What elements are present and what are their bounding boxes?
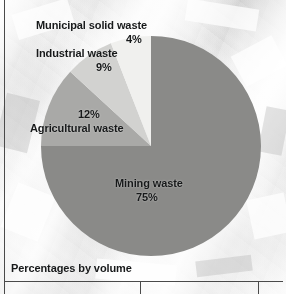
frame-tick-left [4, 281, 5, 294]
slice-label-mining-waste: Mining waste [115, 177, 183, 190]
pie-svg [40, 35, 262, 257]
chart-footnote: Percentages by volume [11, 262, 132, 274]
slice-value-mining-waste: 75% [136, 191, 158, 204]
frame-left-rule [4, 0, 5, 294]
frame-tick-right [258, 281, 259, 294]
slice-label-municipal-solid-waste: Municipal solid waste [36, 19, 147, 32]
frame-bottom-rule [4, 281, 283, 282]
slice-label-agricultural-waste: Agricultural waste [30, 122, 124, 135]
slice-value-municipal-solid-waste: 4% [126, 33, 142, 46]
pie-chart [40, 35, 262, 257]
slice-value-industrial-waste: 9% [96, 61, 112, 74]
slice-label-industrial-waste: Industrial waste [36, 47, 118, 60]
frame-tick-middle [140, 281, 141, 294]
infographic-pie-chart-panel: Municipal solid waste 4% Industrial wast… [0, 0, 286, 294]
slice-value-agricultural-waste: 12% [78, 108, 100, 121]
